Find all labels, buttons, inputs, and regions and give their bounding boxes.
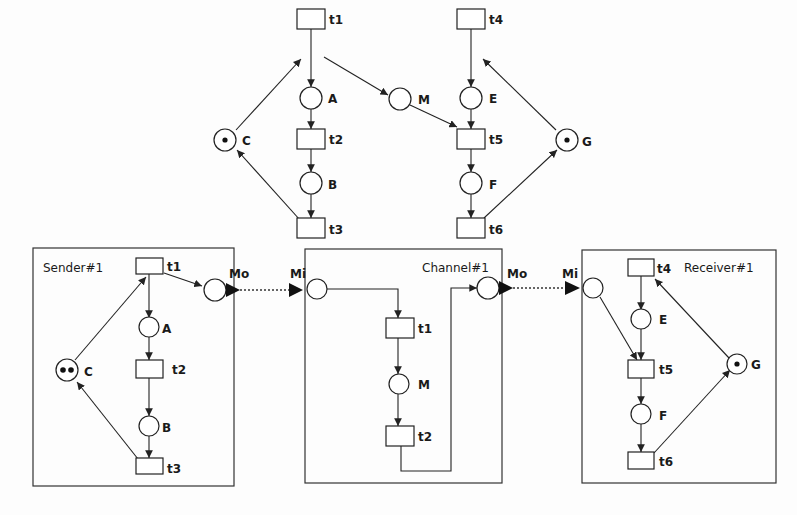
sender-label-B: B [162, 421, 171, 435]
token-receiver-G [734, 361, 739, 366]
port-in-channel [289, 283, 303, 297]
place-F[interactable] [460, 172, 482, 194]
sender-module: Sender#1 t1 t2 t3 A B C Mo [33, 248, 249, 486]
arc-s-C-t1 [75, 277, 146, 360]
port-out-channel [499, 281, 513, 295]
sender-label-t2: t2 [172, 363, 186, 377]
sender-transition-t1[interactable] [136, 258, 163, 274]
sender-place-Mo[interactable] [204, 279, 226, 301]
label-t1: t1 [329, 13, 343, 27]
sender-label-Mo: Mo [229, 267, 249, 281]
channel-module: Channel#1 Mi Mo t1 M t2 [290, 249, 527, 483]
receiver-label-E: E [659, 313, 667, 327]
channel-title: Channel#1 [422, 261, 489, 275]
receiver-label-F: F [659, 409, 667, 423]
arc-s-t3-C [77, 382, 138, 459]
channel-label-t2: t2 [418, 430, 432, 444]
receiver-place-Mi[interactable] [583, 278, 603, 298]
label-t6: t6 [489, 223, 503, 237]
sender-transition-t3[interactable] [136, 458, 163, 474]
receiver-label-t5: t5 [659, 363, 673, 377]
channel-label-Mi: Mi [290, 267, 306, 281]
transition-t2[interactable] [297, 129, 325, 149]
sender-place-A[interactable] [139, 317, 159, 337]
label-t5: t5 [489, 133, 503, 147]
token-C [222, 137, 227, 142]
receiver-title: Receiver#1 [684, 261, 754, 275]
label-E: E [489, 92, 497, 106]
label-F: F [489, 178, 497, 192]
place-M[interactable] [389, 88, 411, 110]
port-out-sender [226, 283, 240, 297]
transition-t1[interactable] [297, 9, 325, 29]
receiver-place-F[interactable] [631, 404, 651, 424]
sender-label-A: A [162, 322, 172, 336]
channel-place-Mo[interactable] [477, 277, 499, 299]
arc-t1-M [324, 57, 388, 95]
channel-frame [305, 249, 502, 483]
channel-place-Mi[interactable] [307, 279, 327, 299]
label-t4: t4 [489, 13, 503, 27]
label-t2: t2 [329, 133, 343, 147]
transition-t3[interactable] [297, 218, 325, 238]
label-t3: t3 [329, 223, 343, 237]
channel-transition-t2[interactable] [386, 426, 414, 446]
token-G [564, 137, 569, 142]
place-A[interactable] [300, 87, 322, 109]
arc-C-t1 [236, 59, 301, 130]
receiver-transition-t4[interactable] [628, 259, 654, 276]
top-net: t1 t2 t3 t4 t5 t6 A B C M E F G [214, 9, 592, 238]
sender-label-C: C [84, 365, 93, 379]
arc-r-Mi-t5 [600, 297, 637, 360]
label-C: C [242, 134, 251, 148]
receiver-transition-t6[interactable] [628, 452, 654, 469]
receiver-label-t4: t4 [657, 262, 671, 276]
channel-label-Mo: Mo [507, 267, 527, 281]
place-B[interactable] [300, 172, 322, 194]
label-G: G [582, 135, 592, 149]
label-A: A [328, 92, 338, 106]
diagram-svg: t1 t2 t3 t4 t5 t6 A B C M E F G Sender#1… [0, 0, 797, 515]
sender-place-C[interactable] [56, 359, 78, 381]
petri-net-diagram: t1 t2 t3 t4 t5 t6 A B C M E F G Sender#1… [0, 0, 797, 515]
receiver-transition-t5[interactable] [628, 360, 654, 378]
arc-t3-C [237, 150, 300, 220]
receiver-module: Receiver#1 Mi t4 E t5 F t6 G [562, 250, 776, 483]
transition-t4[interactable] [457, 9, 485, 29]
channel-place-M[interactable] [389, 374, 409, 394]
token-sender-C-2 [68, 367, 74, 373]
arc-M-t5 [410, 105, 457, 127]
receiver-label-t6: t6 [659, 455, 673, 469]
label-M: M [418, 93, 430, 107]
channel-label-t1: t1 [418, 322, 432, 336]
sender-place-B[interactable] [139, 416, 159, 436]
channel-transition-t1[interactable] [386, 318, 414, 338]
receiver-label-Mi: Mi [562, 267, 578, 281]
sender-transition-t2[interactable] [136, 360, 163, 378]
arc-c-Mi-t1 [327, 289, 398, 318]
transition-t6[interactable] [457, 218, 485, 238]
receiver-place-E[interactable] [631, 309, 651, 329]
arc-s-t1-Mo [164, 273, 202, 286]
sender-title: Sender#1 [43, 261, 103, 275]
channel-label-M: M [418, 378, 430, 392]
sender-label-t1: t1 [167, 260, 181, 274]
sender-label-t3: t3 [167, 462, 181, 476]
receiver-label-G: G [751, 358, 761, 372]
transition-t5[interactable] [457, 129, 485, 149]
place-E[interactable] [460, 87, 482, 109]
label-B: B [328, 178, 337, 192]
token-sender-C-1 [60, 367, 66, 373]
port-in-receiver [565, 281, 580, 295]
